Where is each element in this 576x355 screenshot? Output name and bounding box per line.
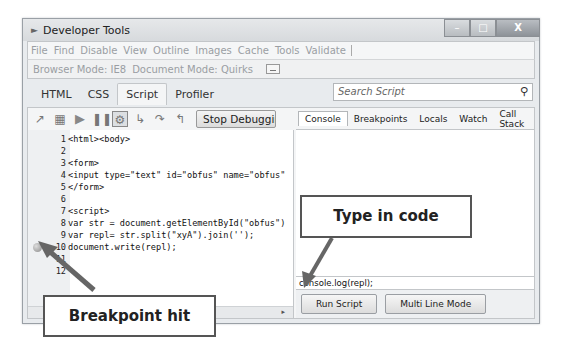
type-in-code-callout: Type in code [300, 195, 472, 238]
type-in-code-arrowhead [302, 271, 316, 288]
type-in-code-arrow [310, 238, 332, 276]
breakpoint-hit-callout: Breakpoint hit [43, 295, 216, 337]
breakpoint-arrow [48, 250, 94, 290]
